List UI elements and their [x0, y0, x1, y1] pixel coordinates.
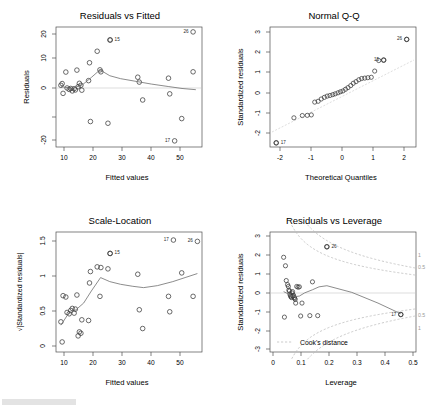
data-point: [282, 255, 286, 259]
x-tick: 0.2: [324, 359, 333, 366]
data-point: [283, 264, 287, 268]
panel-scale-location: Scale-Location 1.5 1 0.5 0 √|Standardize…: [0, 205, 214, 409]
y-tick-labels: 20 10 0 -20: [40, 30, 47, 145]
x-tick: 40: [147, 154, 155, 161]
data-point: [108, 38, 113, 43]
point-label-15: 15: [374, 57, 380, 62]
data-point: [299, 314, 303, 318]
panel-title: Residuals vs Leverage: [286, 215, 382, 226]
data-point: [179, 271, 184, 276]
contour-label-lower-05: 0.5: [418, 312, 425, 318]
x-axis-label: Theoretical Quantiles: [305, 173, 377, 182]
y-tick-labels: 3 2 1 0 -1 -2 -3: [254, 234, 261, 352]
y-tick: 3: [254, 30, 261, 34]
x-tick-labels: 0 0.1 0.2 0.3 0.4 0.5: [271, 359, 418, 366]
data-point: [98, 294, 103, 299]
y-axis-ticks: [266, 32, 270, 133]
data-point: [64, 70, 69, 75]
data-point: [140, 326, 145, 331]
lowess-smoother: [61, 70, 196, 90]
y-tick: 0: [254, 91, 261, 95]
data-point: [179, 116, 184, 121]
contour-label-upper-05: 0.5: [418, 264, 425, 270]
data-point: [300, 301, 304, 305]
x-tick: 2: [402, 154, 406, 161]
data-point: [404, 37, 409, 42]
data-point: [75, 68, 80, 73]
x-tick-labels: 10 20 30 40 50: [60, 154, 184, 161]
y-axis-ticks: [52, 241, 56, 346]
plot-frame: [56, 27, 202, 147]
data-point: [64, 295, 69, 300]
data-point: [166, 294, 171, 299]
x-axis-label: Fitted values: [105, 378, 148, 387]
y-tick-labels: 1.5 1 0.5 0: [39, 236, 46, 348]
point-label-17: 17: [165, 138, 171, 143]
scatter-points: [59, 38, 196, 126]
y-axis-label: Residuals: [22, 70, 31, 104]
data-point: [308, 314, 312, 318]
data-point: [106, 121, 111, 126]
point-label-26: 26: [183, 29, 189, 34]
y-axis-label: Standardized residuals: [236, 48, 245, 125]
point-label-15: 15: [115, 37, 121, 42]
data-point: [88, 119, 93, 124]
y-tick: 2: [254, 253, 261, 257]
panel-residuals-vs-fitted: Residuals vs Fitted 20 10 0 -20 Residual…: [0, 0, 214, 204]
cooks-contour-1: [307, 225, 415, 268]
residuals-vs-fitted-svg: Residuals vs Fitted 20 10 0 -20 Residual…: [0, 0, 214, 204]
x-tick: 0.3: [352, 359, 361, 366]
data-point: [59, 320, 64, 325]
y-tick: 1: [254, 70, 261, 74]
y-tick-labels: 3 2 1 0 -1 -2: [254, 30, 261, 136]
data-point: [167, 309, 172, 314]
x-tick: 0.4: [380, 359, 389, 366]
y-tick: -1: [254, 309, 261, 315]
data-point: [195, 239, 200, 244]
point-labels: 151726: [108, 237, 200, 256]
contour-label-lower-1: 1: [418, 325, 421, 331]
x-tick: 0.5: [408, 359, 417, 366]
x-tick: 10: [60, 154, 68, 161]
point-label-15: 15: [115, 250, 121, 255]
data-point: [108, 251, 113, 256]
x-tick: 20: [89, 359, 97, 366]
data-point: [80, 318, 85, 323]
point-labels: 171526: [274, 36, 409, 145]
x-tick-labels: 10 20 30 40 50: [60, 359, 184, 366]
data-point: [135, 75, 140, 80]
page-scan-artifact: [2, 399, 76, 405]
point-label-26: 26: [188, 238, 194, 243]
data-point: [61, 91, 66, 96]
x-tick: 10: [60, 359, 68, 366]
y-tick: 10: [40, 54, 47, 62]
data-point: [167, 92, 172, 97]
y-axis-label: √|Standardized residuals|: [16, 252, 24, 331]
data-point: [171, 238, 176, 243]
data-point: [166, 76, 171, 81]
data-point: [373, 69, 377, 73]
data-point: [137, 307, 142, 312]
x-tick: 50: [176, 359, 184, 366]
cooks-contour-0.5: [292, 309, 416, 359]
point-label-17: 17: [164, 237, 170, 242]
qq-reference-line: [272, 60, 414, 132]
x-tick: 0.1: [296, 359, 305, 366]
y-tick: 0.5: [39, 306, 46, 315]
y-tick: 1.5: [39, 236, 46, 245]
x-tick: 40: [147, 359, 155, 366]
y-tick: 20: [40, 30, 47, 38]
x-axis-label: Leverage: [325, 378, 357, 387]
y-tick: 0: [40, 86, 47, 90]
scale-location-svg: Scale-Location 1.5 1 0.5 0 √|Standardize…: [0, 205, 214, 409]
x-tick: 30: [118, 359, 126, 366]
data-point: [60, 340, 65, 345]
data-point: [325, 244, 330, 249]
panel-residuals-vs-leverage: Residuals vs Leverage 3 2 1 0 -1 -2 -3 S…: [214, 205, 428, 409]
y-tick: 0: [254, 291, 261, 295]
diagnostic-plot-figure: Residuals vs Fitted 20 10 0 -20 Residual…: [0, 0, 428, 409]
scatter-points: [274, 37, 409, 145]
y-tick: -2: [254, 130, 261, 136]
data-point: [172, 139, 177, 144]
y-tick: 1: [39, 274, 46, 278]
